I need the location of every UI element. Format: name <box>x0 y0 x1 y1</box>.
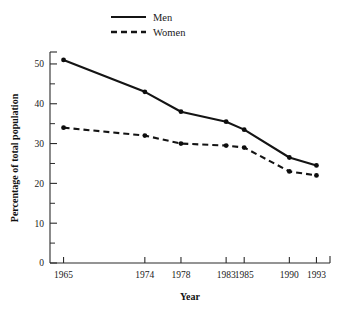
data-point-men <box>61 58 66 63</box>
data-point-men <box>242 127 247 132</box>
x-tick-label: 1974 <box>135 270 154 280</box>
chart-legend: Men Women <box>111 12 186 38</box>
x-tick-label: 1985 <box>235 270 254 280</box>
y-axis-ticks: 01020304050 <box>35 59 58 268</box>
data-point-men <box>179 109 184 114</box>
y-tick-label: 20 <box>35 179 45 189</box>
x-tick-label: 1965 <box>54 270 73 280</box>
data-point-women <box>242 145 247 150</box>
data-point-women <box>287 169 292 174</box>
x-tick-label: 1993 <box>307 270 326 280</box>
legend-label-men: Men <box>153 12 173 23</box>
data-point-women <box>61 125 66 130</box>
data-point-women <box>224 143 229 148</box>
chart-series <box>61 58 319 178</box>
line-chart: Men Women 01020304050 196519741978198319… <box>0 0 340 316</box>
x-tick-label: 1983 <box>217 270 236 280</box>
x-axis-ticks: 1965197419781983198519901993 <box>54 257 326 280</box>
y-tick-label: 0 <box>39 258 44 268</box>
series-line-men <box>64 60 317 166</box>
y-axis-title: Percentage of total population <box>9 93 20 222</box>
y-tick-label: 50 <box>35 59 45 69</box>
data-point-men <box>287 155 292 160</box>
legend-label-women: Women <box>153 27 186 38</box>
data-point-men <box>314 163 319 168</box>
data-point-men <box>224 119 229 124</box>
x-tick-label: 1990 <box>280 270 299 280</box>
y-tick-label: 10 <box>35 219 45 229</box>
x-axis-title: Year <box>180 291 201 302</box>
chart-container: Men Women 01020304050 196519741978198319… <box>0 0 340 316</box>
y-tick-label: 30 <box>35 139 45 149</box>
data-point-men <box>142 89 147 94</box>
data-point-women <box>142 133 147 138</box>
y-tick-label: 40 <box>35 99 45 109</box>
data-point-women <box>314 173 319 178</box>
x-tick-label: 1978 <box>171 270 190 280</box>
data-point-women <box>179 141 184 146</box>
